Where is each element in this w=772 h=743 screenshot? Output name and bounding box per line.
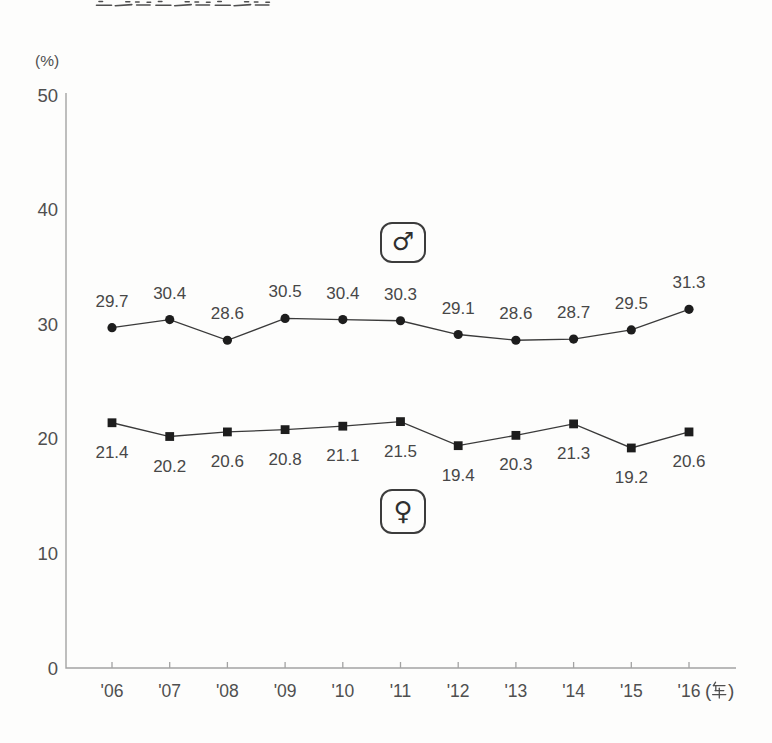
data-point xyxy=(165,315,174,324)
y-axis-unit-label: (%) xyxy=(35,52,59,69)
svg-text:30.4: 30.4 xyxy=(153,284,186,303)
svg-text:28.7: 28.7 xyxy=(557,303,590,322)
svg-text:0: 0 xyxy=(48,658,58,679)
svg-text:'16: '16 xyxy=(678,681,701,701)
svg-text:21.1: 21.1 xyxy=(326,446,359,465)
female-symbol-icon: ♀ xyxy=(393,498,412,524)
data-point xyxy=(338,315,347,324)
data-point xyxy=(627,325,636,334)
svg-text:20.6: 20.6 xyxy=(672,452,705,471)
svg-text:'06: '06 xyxy=(101,681,124,701)
svg-text:21.4: 21.4 xyxy=(95,443,128,462)
x-axis-ticks xyxy=(112,662,689,668)
scanned-chart-page: 01020304050(%)'06'07'08'09'10'11'12'13'1… xyxy=(0,0,772,743)
data-point xyxy=(107,323,116,332)
svg-text:20.6: 20.6 xyxy=(211,452,244,471)
svg-text:'13: '13 xyxy=(504,681,527,701)
data-point xyxy=(569,334,578,343)
svg-text:50: 50 xyxy=(37,85,58,106)
female-value-labels: 21.420.220.620.821.121.519.420.321.319.2… xyxy=(95,442,705,487)
clipped-title-fragments xyxy=(97,2,270,6)
svg-text:'09: '09 xyxy=(274,681,297,701)
svg-text:'08: '08 xyxy=(216,681,239,701)
data-point xyxy=(338,422,347,431)
svg-text:40: 40 xyxy=(37,199,58,220)
svg-text:29.1: 29.1 xyxy=(442,299,475,318)
svg-text:30.4: 30.4 xyxy=(326,284,359,303)
svg-text:28.6: 28.6 xyxy=(211,304,244,323)
svg-text:28.6: 28.6 xyxy=(499,304,532,323)
svg-text:'15: '15 xyxy=(620,681,643,701)
svg-text:(: ( xyxy=(705,680,712,701)
svg-text:29.5: 29.5 xyxy=(615,294,648,313)
svg-text:'10: '10 xyxy=(331,681,354,701)
y-axis-labels: 01020304050(%) xyxy=(35,52,59,679)
svg-text:20: 20 xyxy=(37,428,58,449)
data-point xyxy=(569,420,578,429)
svg-text:21.5: 21.5 xyxy=(384,442,417,461)
svg-text:31.3: 31.3 xyxy=(672,273,705,292)
data-point xyxy=(281,314,290,323)
svg-text:10: 10 xyxy=(37,543,58,564)
svg-text:30.5: 30.5 xyxy=(269,282,302,301)
data-point xyxy=(223,336,232,345)
data-point xyxy=(627,444,636,453)
male-series-markers xyxy=(107,305,693,345)
svg-text:29.7: 29.7 xyxy=(95,292,128,311)
legend-male-box: ♂ xyxy=(380,222,426,263)
data-point xyxy=(396,316,405,325)
svg-text:20.2: 20.2 xyxy=(153,457,186,476)
legend-female-box: ♀ xyxy=(380,489,426,534)
svg-text:19.4: 19.4 xyxy=(442,466,475,485)
svg-text:'12: '12 xyxy=(447,681,470,701)
data-point xyxy=(165,432,174,441)
svg-text:20.8: 20.8 xyxy=(269,450,302,469)
data-point xyxy=(454,330,463,339)
svg-text:'11: '11 xyxy=(390,681,412,701)
svg-text:30.3: 30.3 xyxy=(384,285,417,304)
axes xyxy=(66,93,736,668)
x-axis-labels: '06'07'08'09'10'11'12'13'14'15'16 xyxy=(101,681,701,701)
data-point xyxy=(512,431,521,440)
svg-text:20.3: 20.3 xyxy=(499,455,532,474)
svg-text:'14: '14 xyxy=(562,681,585,701)
data-point xyxy=(684,305,693,314)
data-point xyxy=(223,428,232,437)
x-axis-unit-label: () xyxy=(705,680,734,701)
svg-text:'07: '07 xyxy=(158,681,181,701)
male-symbol-icon: ♂ xyxy=(392,229,414,254)
data-point xyxy=(281,425,290,434)
data-point xyxy=(108,418,117,427)
svg-text:): ) xyxy=(728,680,734,701)
data-point xyxy=(454,441,463,450)
svg-text:19.2: 19.2 xyxy=(615,468,648,487)
obesity-rate-line-chart: 01020304050(%)'06'07'08'09'10'11'12'13'1… xyxy=(0,0,772,743)
svg-text:21.3: 21.3 xyxy=(557,444,590,463)
data-point xyxy=(511,336,520,345)
male-value-labels: 29.730.428.630.530.430.329.128.628.729.5… xyxy=(95,273,705,323)
svg-text:30: 30 xyxy=(37,314,58,335)
data-point xyxy=(396,417,405,426)
data-point xyxy=(685,428,694,437)
